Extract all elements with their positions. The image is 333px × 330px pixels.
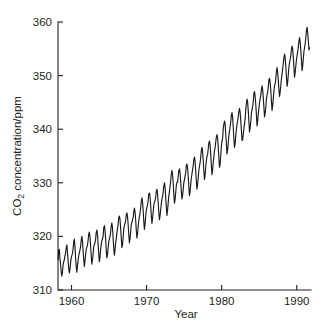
y-tick-label-360: 360 (33, 16, 52, 28)
x-tick-label-1980: 1980 (209, 295, 235, 307)
y-tick-label-350: 350 (33, 70, 52, 82)
y-tick-label-310: 310 (33, 284, 52, 296)
co2-line-chart: 310320330340350360 1960197019801990 Year… (0, 0, 333, 330)
x-tick-label-1990: 1990 (284, 295, 310, 307)
x-axis-title: Year (174, 308, 197, 320)
x-tick-label-1970: 1970 (134, 295, 160, 307)
y-axis-title-post: concentration/ppm (11, 96, 23, 194)
chart-background (0, 0, 333, 330)
y-tick-label-340: 340 (33, 123, 52, 135)
y-tick-label-320: 320 (33, 230, 52, 242)
x-tick-label-1960: 1960 (59, 295, 85, 307)
y-tick-label-330: 330 (33, 177, 52, 189)
y-axis-title-pre: CO (11, 199, 23, 216)
